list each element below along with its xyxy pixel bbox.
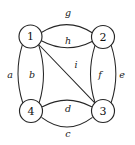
edge-e[interactable] (111, 45, 116, 102)
node-2-label: 2 (100, 31, 107, 44)
graph-figure: 1 2 3 4 g h a b f e d c i (0, 0, 135, 145)
edge-label-h: h (65, 35, 71, 46)
edge-label-e: e (119, 69, 125, 80)
edge-label-b: b (29, 69, 35, 80)
edge-label-i: i (74, 59, 77, 70)
edge-label-f: f (97, 69, 103, 80)
edge-label-a: a (7, 69, 13, 80)
graph-canvas: 1 2 3 4 g h a b f e d c i (0, 0, 135, 145)
node-3-label: 3 (100, 105, 107, 118)
node-4-label: 4 (28, 105, 35, 118)
edge-g[interactable] (41, 25, 92, 33)
edge-b[interactable] (39, 45, 44, 103)
edge-label-g: g (65, 7, 71, 18)
edge-a[interactable] (18, 45, 23, 103)
edge-label-c: c (65, 128, 71, 139)
edge-f[interactable] (91, 45, 96, 102)
node-1-label: 1 (27, 30, 34, 43)
edge-c[interactable] (42, 118, 92, 127)
edge-label-d: d (65, 103, 71, 114)
edge-i[interactable] (39, 45, 95, 104)
